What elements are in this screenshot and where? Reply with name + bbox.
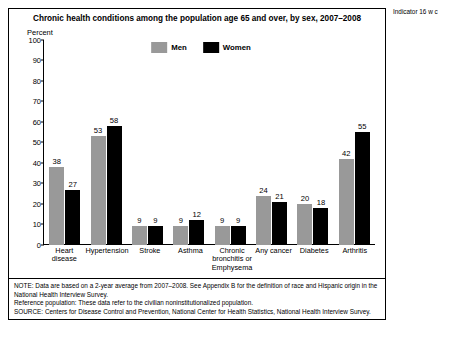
bar-value-label: 53 <box>94 126 102 135</box>
category-label: Arthritis <box>334 247 375 272</box>
category-label: Hypertension <box>85 247 130 272</box>
bar-value-label: 21 <box>275 192 283 201</box>
bar-value-label: 24 <box>259 186 267 195</box>
bar-value-label: 9 <box>220 216 224 225</box>
bar-pair: 3827 <box>44 40 85 245</box>
y-tick-label: 40 <box>33 158 41 167</box>
side-margin-text: Indicator 16 w c <box>393 8 463 17</box>
bar-value-label: 9 <box>236 216 240 225</box>
bar-pair: 5358 <box>85 40 126 245</box>
bar-group: 2018 <box>292 40 333 245</box>
bar-value-label: 55 <box>358 122 366 131</box>
bar-men: 42 <box>339 159 354 245</box>
y-tick-label: 50 <box>33 138 41 147</box>
chart-figure: Chronic health conditions among the popu… <box>8 8 386 320</box>
bar-pair: 99 <box>210 40 251 245</box>
category-label: Diabetes <box>294 247 335 272</box>
bar-value-label: 58 <box>110 116 118 125</box>
bar-value-label: 20 <box>301 194 309 203</box>
bar-group: 4255 <box>334 40 375 245</box>
bar-women: 12 <box>189 220 204 245</box>
bar-women: 9 <box>148 226 163 244</box>
bar-women: 9 <box>231 226 246 244</box>
chart-title: Chronic health conditions among the popu… <box>15 14 379 24</box>
bar-value-label: 27 <box>68 180 76 189</box>
bar-men: 53 <box>91 136 106 245</box>
bar-pair: 99 <box>127 40 168 245</box>
bar-men: 20 <box>297 204 312 245</box>
bar-men: 9 <box>173 226 188 244</box>
category-label: Chronicbronchitis orEmphysema <box>211 247 254 272</box>
bar-pair: 912 <box>168 40 209 245</box>
bar-women: 55 <box>355 132 370 245</box>
bar-men: 38 <box>49 167 64 245</box>
bar-pair: 4255 <box>334 40 375 245</box>
bar-group: 912 <box>168 40 209 245</box>
bar-value-label: 9 <box>153 216 157 225</box>
bar-group: 2421 <box>251 40 292 245</box>
bar-women: 58 <box>107 126 122 245</box>
y-tick-label: 10 <box>33 220 41 229</box>
category-label: Heartdisease <box>44 247 85 272</box>
bar-groups: 382753589991299242120184255 <box>44 40 375 245</box>
bar-value-label: 38 <box>52 157 60 166</box>
bar-pair: 2421 <box>251 40 292 245</box>
y-tick-label: 90 <box>33 56 41 65</box>
plot-area: Percent 1009080706050403020100 Men Women… <box>9 26 385 266</box>
note-reference-population: Reference population: These data refer t… <box>14 299 380 307</box>
y-tick-label: 70 <box>33 97 41 106</box>
bar-group: 5358 <box>85 40 126 245</box>
y-tick-label: 100 <box>28 35 41 44</box>
y-tick-label: 80 <box>33 76 41 85</box>
bar-men: 9 <box>132 226 147 244</box>
bar-value-label: 9 <box>137 216 141 225</box>
note-data: NOTE: Data are based on a 2-year average… <box>14 282 380 299</box>
category-label: Any cancer <box>253 247 294 272</box>
bar-men: 9 <box>215 226 230 244</box>
bar-value-label: 9 <box>179 216 183 225</box>
chart-footnotes: NOTE: Data are based on a 2-year average… <box>9 278 385 319</box>
bar-men: 24 <box>256 196 271 245</box>
y-tick-label: 60 <box>33 117 41 126</box>
bar-group: 99 <box>210 40 251 245</box>
bar-value-label: 42 <box>342 149 350 158</box>
bar-women: 21 <box>272 202 287 245</box>
category-label: Asthma <box>170 247 211 272</box>
bar-pair: 2018 <box>292 40 333 245</box>
category-label: Stroke <box>130 247 171 272</box>
note-source: SOURCE: Centers for Disease Control and … <box>14 308 380 316</box>
y-tick-label: 20 <box>33 199 41 208</box>
bar-value-label: 18 <box>317 198 325 207</box>
y-tick-label: 30 <box>33 179 41 188</box>
bar-value-label: 12 <box>193 210 201 219</box>
category-labels: HeartdiseaseHypertensionStrokeAsthmaChro… <box>44 247 375 272</box>
bar-women: 27 <box>65 190 80 245</box>
bar-group: 3827 <box>44 40 85 245</box>
bar-women: 18 <box>313 208 328 245</box>
bar-group: 99 <box>127 40 168 245</box>
